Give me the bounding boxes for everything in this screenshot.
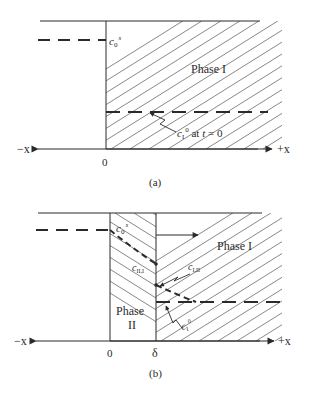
c-ii-i-point bbox=[154, 262, 158, 266]
diagram-b: −x +x 0 δ Phase I Phase II c0s cII,I cI,… bbox=[0, 213, 315, 380]
origin-label: 0 bbox=[102, 156, 108, 168]
hatch-line bbox=[130, 21, 315, 149]
hatch-line bbox=[134, 213, 315, 341]
hatch-line bbox=[248, 213, 315, 341]
hatch-line bbox=[313, 213, 315, 341]
c1-bulk-label: cI0 bbox=[180, 318, 193, 333]
hatch-line bbox=[229, 213, 315, 341]
hatch-line bbox=[1, 213, 206, 341]
hatch-line bbox=[294, 213, 315, 341]
hatch-line bbox=[96, 213, 301, 341]
hatch-line bbox=[256, 213, 315, 341]
c1-initial-label: cI0 at t = 0 bbox=[177, 126, 223, 141]
hatch-line bbox=[58, 213, 263, 341]
diagram-canvas: −x +x 0 Phase I c0s cI0 at t = 0 (a) −x … bbox=[0, 0, 315, 397]
hatch-line bbox=[282, 21, 315, 149]
hatch-line bbox=[39, 213, 244, 341]
c0s-label: c0s bbox=[109, 34, 121, 49]
delta-label: δ bbox=[152, 346, 158, 360]
hatch-line bbox=[275, 213, 315, 341]
c-ii-i-label: cII,I bbox=[132, 262, 144, 274]
c-i-ii-pointer-arrow bbox=[160, 274, 190, 286]
phase-ii-label-line2: II bbox=[128, 318, 136, 332]
phase-i-label: Phase I bbox=[217, 239, 252, 253]
phase-i-hatching bbox=[28, 213, 315, 341]
origin-label: 0 bbox=[107, 347, 113, 359]
hatch-line bbox=[244, 21, 315, 149]
phase-i-label: Phase I bbox=[191, 62, 226, 76]
hatch-line bbox=[172, 213, 315, 341]
hatch-line bbox=[0, 213, 187, 341]
c-i-ii-label: cI,II bbox=[188, 261, 200, 273]
neg-x-label: −x bbox=[14, 334, 27, 348]
hatch-line bbox=[0, 21, 183, 149]
hatch-line bbox=[267, 213, 315, 341]
hatch-line bbox=[180, 213, 315, 341]
phase-ii-profile bbox=[110, 230, 156, 264]
c0s-label: c0s bbox=[116, 221, 128, 236]
hatch-line bbox=[123, 213, 315, 341]
caption-b: (b) bbox=[149, 367, 162, 380]
hatch-line bbox=[66, 213, 271, 341]
hatch-line bbox=[199, 213, 315, 341]
pos-x-label: +x bbox=[278, 334, 291, 348]
pos-x-label: +x bbox=[277, 142, 290, 156]
phase-ii-label-line1: Phase bbox=[116, 304, 144, 318]
neg-x-label: −x bbox=[17, 142, 30, 156]
diagram-a: −x +x 0 Phase I c0s cI0 at t = 0 (a) bbox=[0, 21, 315, 189]
hatch-line bbox=[115, 213, 315, 341]
hatch-line bbox=[47, 213, 252, 341]
hatch-line bbox=[191, 213, 315, 341]
hatch-line bbox=[301, 21, 315, 149]
caption-a: (a) bbox=[149, 176, 162, 189]
hatch-line bbox=[218, 213, 315, 341]
